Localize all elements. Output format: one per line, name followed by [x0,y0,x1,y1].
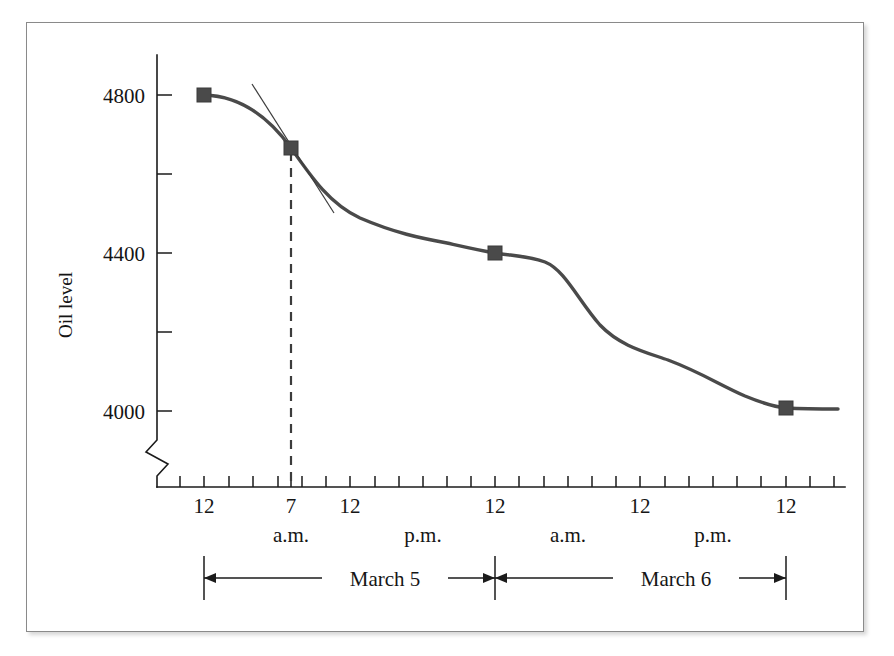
x-period-label-4: p.m. [694,523,731,547]
date-range-march-5: March 5 [204,556,495,600]
data-marker-2 [284,141,298,155]
date-range-label-1: March 5 [350,567,421,591]
x-tick-label-3: 12 [340,494,361,518]
y-tick-marks [157,95,172,411]
x-tick-label-5: 12 [630,494,651,518]
x-tick-label-6: 12 [776,494,797,518]
arrow-right-march-5 [483,573,495,583]
x-period-label-2: p.m. [404,523,441,547]
arrow-left-march-5 [204,573,216,583]
data-marker-4 [779,401,793,415]
y-tick-label-4400: 4400 [103,242,145,266]
data-marker-3 [488,246,502,260]
x-tick-marks [180,476,834,487]
oil-level-chart: 4800 4400 4000 Oil level [0,0,894,656]
y-axis-line [146,55,168,487]
x-tick-label-1: 12 [194,494,215,518]
x-tick-label-4: 12 [485,494,506,518]
date-range-label-2: March 6 [641,567,712,591]
x-tick-label-2: 7 [286,494,297,518]
y-tick-label-4800: 4800 [103,84,145,108]
arrow-right-march-6 [774,573,786,583]
oil-level-curve [204,95,838,409]
arrow-left-march-6 [495,573,507,583]
x-period-label-3: a.m. [550,523,586,547]
data-marker-1 [197,88,211,102]
y-axis-title: Oil level [55,272,76,338]
date-range-march-6: March 6 [495,556,786,600]
figure-root: 4800 4400 4000 Oil level [0,0,894,656]
x-period-label-1: a.m. [273,523,309,547]
y-tick-label-4000: 4000 [103,400,145,424]
